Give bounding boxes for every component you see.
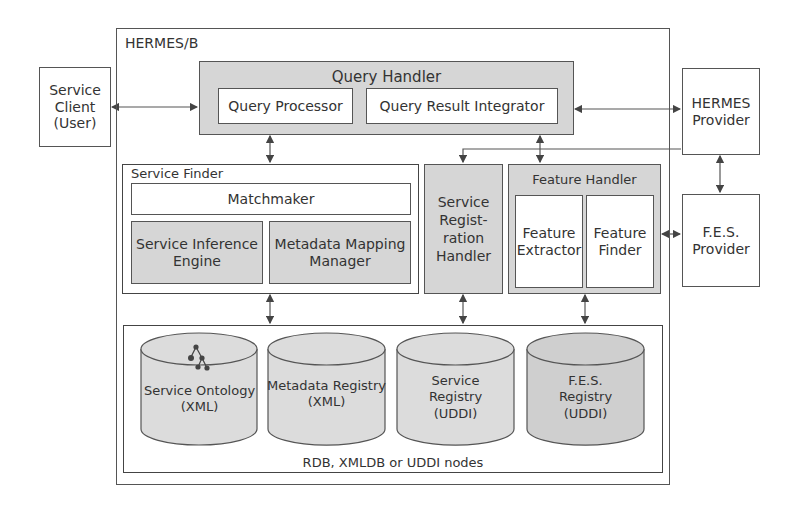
db-label-line: (XML) [141,399,258,415]
db-label-line: (UDDI) [397,406,514,422]
service-registry-label: Service Registry (UDDI) [397,373,514,422]
db-label-line: Metadata Registry [262,378,391,394]
db-label-line: F.E.S. [527,373,644,389]
db-label-line: (UDDI) [527,406,644,422]
db-label-line: (XML) [262,394,391,410]
db-label-line: Service Ontology [141,383,258,399]
db-label-line: Registry [527,389,644,405]
db-label-line: Service [397,373,514,389]
service-ontology-label: Service Ontology (XML) [141,383,258,416]
metadata-registry-label: Metadata Registry (XML) [262,378,391,411]
db-label-line: Registry [397,389,514,405]
fes-registry-label: F.E.S. Registry (UDDI) [527,373,644,422]
database-cylinders [0,0,797,509]
